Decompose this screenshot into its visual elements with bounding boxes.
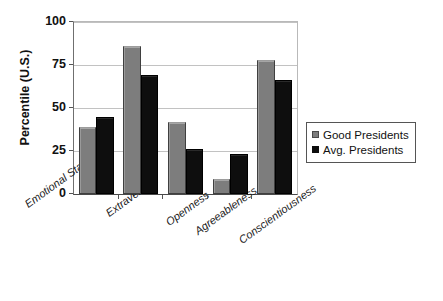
bar-good-presidents	[123, 46, 141, 194]
bar-series-layer	[74, 22, 297, 194]
y-axis-title: Percentile (U.S.)	[14, 0, 36, 195]
plot-area	[73, 21, 298, 195]
bar-good-presidents	[168, 122, 186, 194]
x-axis-tick-mark	[162, 195, 163, 199]
bar-avg-presidents	[186, 149, 204, 194]
bar-avg-presidents	[230, 154, 248, 194]
legend-item-avg-presidents: Avg. Presidents	[312, 142, 409, 157]
y-axis-tick-label: 25	[6, 144, 66, 157]
y-axis-tick-label: 50	[6, 101, 66, 114]
black-square-icon	[312, 146, 319, 153]
legend-label-avg-presidents: Avg. Presidents	[323, 144, 403, 156]
chart-legend: Good Presidents Avg. Presidents	[306, 122, 416, 163]
bar-chart-figure: Percentile (U.S.) 0255075100 Emotional S…	[0, 0, 443, 301]
x-axis-tick-mark	[207, 195, 208, 199]
bar-good-presidents	[213, 179, 231, 194]
bar-good-presidents	[79, 127, 97, 194]
bar-good-presidents	[257, 60, 275, 194]
x-axis-tick-mark	[118, 195, 119, 199]
legend-item-good-presidents: Good Presidents	[312, 127, 409, 142]
y-axis-tick-label: 75	[6, 58, 66, 71]
x-axis-tick-mark	[251, 195, 252, 199]
gray-square-icon	[312, 131, 319, 138]
legend-label-good-presidents: Good Presidents	[323, 129, 409, 141]
bar-avg-presidents	[96, 117, 114, 194]
y-axis-tick-label: 100	[6, 15, 66, 28]
bar-avg-presidents	[275, 80, 293, 194]
bar-avg-presidents	[141, 75, 159, 194]
